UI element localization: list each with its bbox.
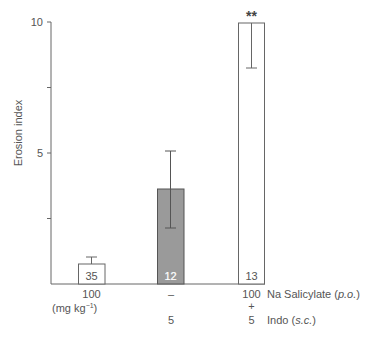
y-axis-title: Erosion index: [12, 99, 24, 166]
dose-unit: (mg kg−1): [52, 302, 97, 314]
significance-marker: **: [246, 8, 257, 24]
dose-na-sal-bar1: 100: [82, 288, 100, 300]
plus-sign: +: [248, 300, 254, 312]
y-ticks: [47, 22, 51, 219]
bar-indo: [158, 151, 185, 284]
bar-2-n-label: 12: [164, 270, 176, 282]
y-tick-label-5: 5: [37, 147, 43, 159]
dose-indo-bar2: 5: [168, 314, 174, 326]
dose-na-sal-bar2: –: [168, 288, 175, 300]
erosion-index-bar-chart: 10 5 Erosion index 35 12 13 ** 100 – 100…: [0, 0, 370, 337]
row-label-indo: Indo (s.c.): [267, 314, 316, 326]
bar-1-n-label: 35: [85, 270, 97, 282]
dose-indo-bar3: 5: [248, 314, 254, 326]
row-label-na-salicylate: Na Salicylate (p.o.): [267, 288, 360, 300]
dose-na-sal-bar3: 100: [242, 288, 260, 300]
bar-3-n-label: 13: [245, 270, 257, 282]
y-tick-label-10: 10: [31, 16, 43, 28]
bar-combination: [239, 23, 265, 284]
